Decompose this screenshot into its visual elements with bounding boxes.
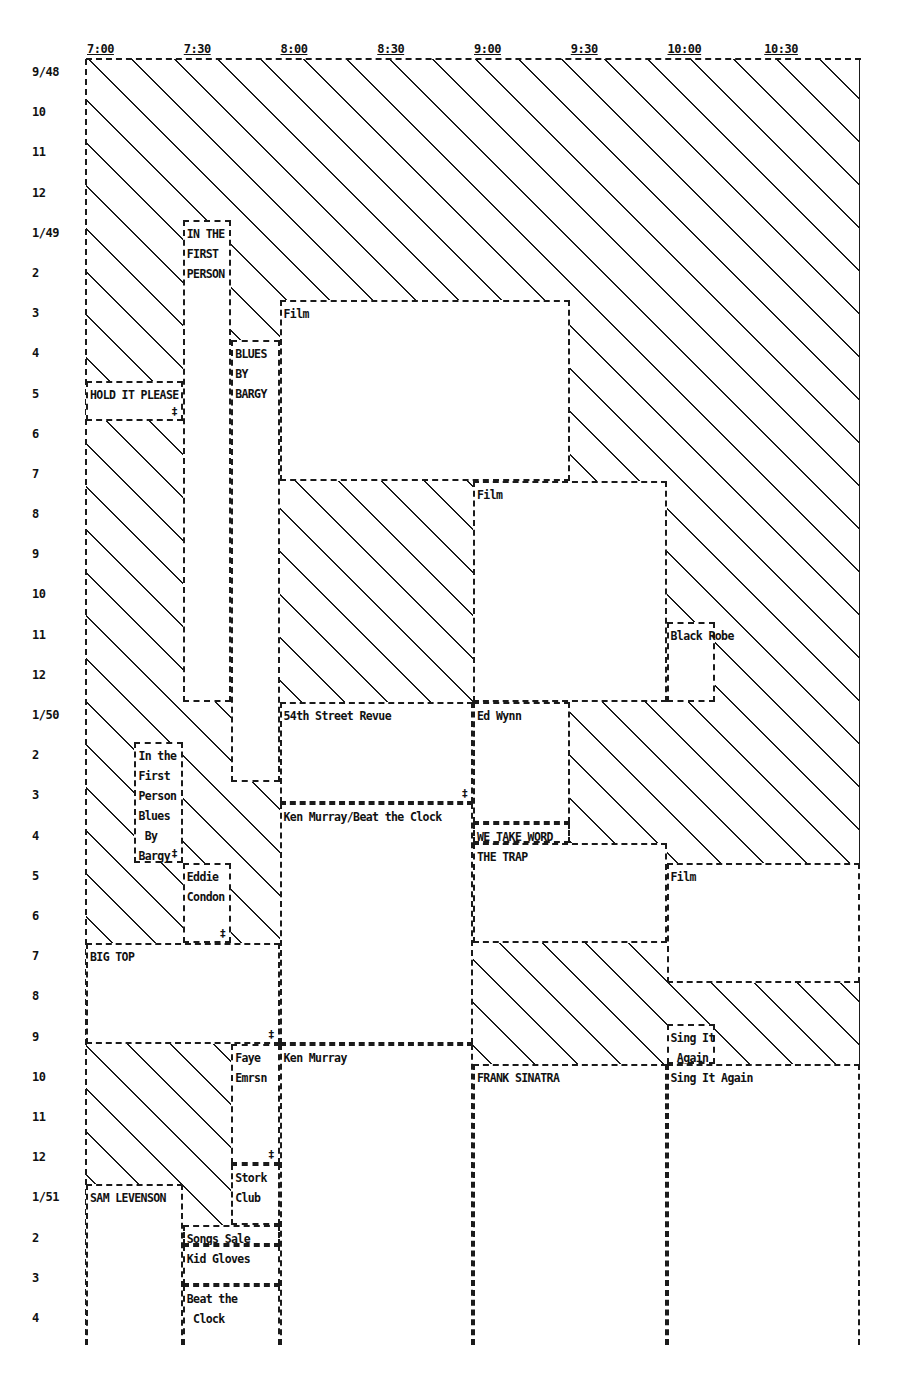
month-tick-label: 11 <box>32 1110 45 1124</box>
program-label: Film <box>477 485 502 505</box>
month-tick-label: 11 <box>32 145 45 159</box>
program-label: Ed Wynn <box>477 706 521 726</box>
month-tick-label: 10 <box>32 1070 45 1084</box>
dagger-mark: ‡ <box>268 1148 275 1161</box>
program-label: Film <box>284 304 309 324</box>
program-block: 54th Street Revue‡ <box>280 702 474 802</box>
program-block: Black Robe <box>667 622 715 702</box>
month-tick-label: 3 <box>32 788 39 802</box>
month-tick-label: 5 <box>32 869 39 883</box>
program-label: Black Robe <box>671 626 734 646</box>
program-label: Sing It Again <box>671 1068 753 1088</box>
program-label: Stork Club <box>235 1168 267 1208</box>
month-tick-label: 10 <box>32 587 45 601</box>
program-block: THE TRAP <box>473 843 667 943</box>
month-tick-label: 9 <box>32 1030 39 1044</box>
dagger-mark: ‡ <box>171 847 178 860</box>
dagger-mark: ‡ <box>461 787 468 800</box>
month-tick-label: 8 <box>32 989 39 1003</box>
dagger-mark: ‡ <box>171 405 178 418</box>
program-label: Sing It Again <box>671 1028 715 1068</box>
month-tick-label: 5 <box>32 387 39 401</box>
program-block: Eddie Condon‡ <box>183 863 231 943</box>
program-label: Film <box>671 867 696 887</box>
month-tick-label: 1/50 <box>32 708 59 722</box>
month-tick-label: 9/48 <box>32 65 59 79</box>
month-tick-label: 6 <box>32 909 39 923</box>
month-tick-label: 12 <box>32 186 45 200</box>
time-tick-label: 8:30 <box>377 42 404 56</box>
program-label: 54th Street Revue <box>284 706 392 726</box>
time-tick-label: 7:00 <box>87 42 114 56</box>
program-block: Film <box>280 300 570 481</box>
time-tick-label: 7:30 <box>184 42 211 56</box>
program-block: Film <box>667 863 861 984</box>
program-block: HOLD IT PLEASE‡ <box>86 381 183 421</box>
program-block: FRANK SINATRA <box>473 1064 667 1345</box>
time-tick-label: 10:30 <box>764 42 798 56</box>
month-tick-label: 2 <box>32 266 39 280</box>
program-label: Ken Murray <box>284 1048 347 1068</box>
program-label: BLUES BY BARGY <box>235 344 267 404</box>
program-block: BLUES BY BARGY <box>231 340 279 782</box>
program-block: Sing It Again <box>667 1024 715 1064</box>
month-tick-label: 10 <box>32 105 45 119</box>
program-label: HOLD IT PLEASE <box>90 385 179 405</box>
program-block: BIG TOP‡ <box>86 943 280 1043</box>
program-label: THE TRAP <box>477 847 528 867</box>
program-block: SAM LEVENSON <box>86 1184 183 1345</box>
program-label: Kid Gloves <box>187 1249 250 1269</box>
left-axis-line <box>85 59 87 1345</box>
program-block: Sing It Again <box>667 1064 861 1345</box>
month-tick-label: 4 <box>32 346 39 360</box>
schedule-chart: 7:007:308:008:309:009:3010:0010:30 9/481… <box>0 0 901 1387</box>
month-tick-label: 4 <box>32 1311 39 1325</box>
time-tick-label: 9:00 <box>474 42 501 56</box>
program-label: Ken Murray/Beat the Clock <box>284 807 442 827</box>
month-tick-label: 6 <box>32 427 39 441</box>
month-tick-label: 1/49 <box>32 226 59 240</box>
program-label: FRANK SINATRA <box>477 1068 559 1088</box>
program-label: BIG TOP <box>90 947 134 967</box>
program-block: Songs Sale <box>183 1225 280 1245</box>
dagger-mark: ‡ <box>268 1028 275 1041</box>
month-tick-label: 7 <box>32 949 39 963</box>
month-tick-label: 7 <box>32 467 39 481</box>
program-block: Ken Murray <box>280 1044 474 1345</box>
time-tick-label: 8:00 <box>281 42 308 56</box>
program-block: In the First Person Blues By Bargy‡ <box>134 742 182 863</box>
top-axis-line <box>86 58 861 60</box>
program-block: WE TAKE WORD <box>473 823 570 843</box>
program-block: Beat the Clock <box>183 1285 280 1345</box>
month-tick-label: 2 <box>32 748 39 762</box>
program-block: Faye Emrsn‡ <box>231 1044 279 1165</box>
program-block: Ed Wynn <box>473 702 570 823</box>
month-tick-label: 2 <box>32 1231 39 1245</box>
program-label: SAM LEVENSON <box>90 1188 166 1208</box>
time-tick-label: 9:30 <box>571 42 598 56</box>
month-tick-label: 8 <box>32 507 39 521</box>
dagger-mark: ‡ <box>220 927 227 940</box>
month-tick-label: 12 <box>32 668 45 682</box>
program-block: Kid Gloves <box>183 1245 280 1285</box>
month-tick-label: 1/51 <box>32 1190 59 1204</box>
program-label: Beat the Clock <box>187 1289 238 1329</box>
month-tick-label: 3 <box>32 1271 39 1285</box>
month-tick-label: 9 <box>32 547 39 561</box>
program-block: Ken Murray/Beat the Clock <box>280 803 474 1044</box>
time-tick-label: 10:00 <box>668 42 702 56</box>
month-tick-label: 12 <box>32 1150 45 1164</box>
program-label: Faye Emrsn <box>235 1048 267 1088</box>
program-label: IN THE FIRST PERSON <box>187 224 225 284</box>
program-block: Film <box>473 481 667 702</box>
month-tick-label: 11 <box>32 628 45 642</box>
program-label: Eddie Condon <box>187 867 225 907</box>
program-block: IN THE FIRST PERSON <box>183 220 231 702</box>
month-tick-label: 3 <box>32 306 39 320</box>
program-block: Stork Club <box>231 1164 279 1224</box>
month-tick-label: 4 <box>32 829 39 843</box>
